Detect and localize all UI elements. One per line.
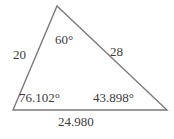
angle-label-top: 60°: [55, 33, 73, 46]
side-label-left: 20: [13, 48, 26, 61]
angle-label-bottom-right: 43.898°: [93, 91, 134, 104]
triangle-figure: 20 28 60° 76.102° 43.898° 24.980: [0, 0, 174, 139]
side-label-right: 28: [110, 45, 123, 58]
angle-label-bottom-left: 76.102°: [19, 91, 60, 104]
side-label-base: 24.980: [58, 115, 94, 128]
